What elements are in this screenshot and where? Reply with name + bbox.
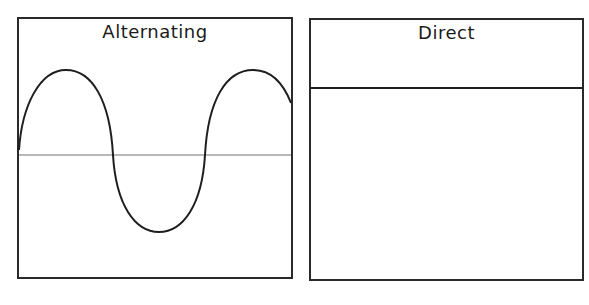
ac-sine-wave [19,70,291,232]
waveform-graphics [0,0,589,305]
